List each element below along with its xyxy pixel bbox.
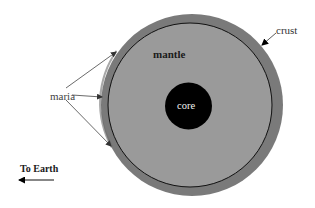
core-label: core <box>177 101 195 112</box>
crust-label: crust <box>276 25 297 36</box>
moon-structure-diagram <box>0 0 315 208</box>
crust-arrow <box>262 33 276 45</box>
mantle-label: mantle <box>153 49 185 60</box>
to-earth-label: To Earth <box>20 164 58 174</box>
maria-label: maria <box>50 91 75 102</box>
maria-arrow-middle <box>72 95 102 97</box>
